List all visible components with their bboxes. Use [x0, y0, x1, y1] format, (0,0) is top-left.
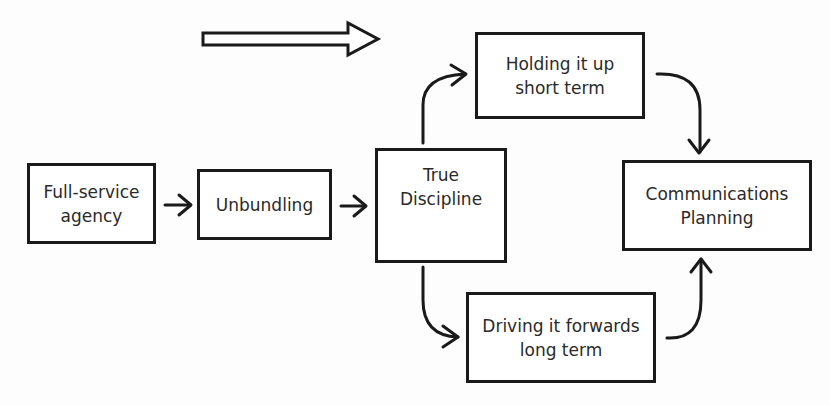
node-driving-it-forwards-long-term: Driving it forwards long term: [466, 292, 656, 383]
arrow-truediscipline-holding: [423, 65, 466, 143]
node-label-line: agency: [61, 204, 123, 228]
direction-arrow-icon: [203, 23, 378, 55]
arrow-unbundling-truediscipline: [341, 196, 366, 216]
node-label-line: Driving it forwards: [482, 314, 639, 338]
node-label-line: Full-service: [43, 180, 139, 204]
node-label-line: True: [423, 163, 459, 187]
arrow-fullservice-unbundling: [165, 195, 191, 215]
node-full-service-agency: Full-service agency: [27, 163, 156, 244]
node-label-line: Planning: [680, 206, 753, 230]
node-label-line: Unbundling: [216, 193, 313, 217]
node-holding-it-up-short-term: Holding it up short term: [475, 32, 645, 119]
node-label-line: Discipline: [400, 187, 482, 211]
node-unbundling: Unbundling: [197, 169, 332, 240]
arrow-driving-communications: [667, 259, 711, 338]
node-label-line: Communications: [646, 182, 789, 206]
node-true-discipline: True Discipline: [375, 148, 507, 263]
diagram-canvas: Full-service agency Unbundling True Disc…: [0, 0, 830, 405]
arrow-truediscipline-driving: [423, 267, 458, 347]
node-label-line: long term: [520, 338, 602, 362]
arrow-holding-communications: [657, 74, 709, 153]
node-label-line: Holding it up: [506, 52, 615, 76]
node-communications-planning: Communications Planning: [622, 160, 812, 251]
node-label-line: short term: [515, 76, 604, 100]
